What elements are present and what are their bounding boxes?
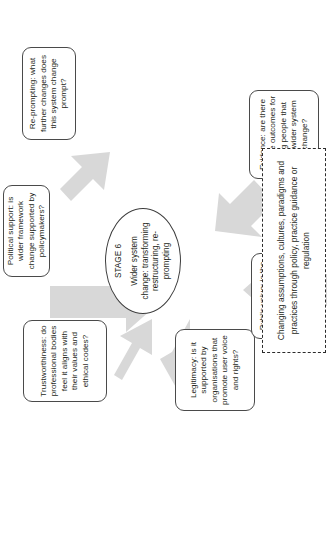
hub-stage-6[interactable]: STAGE 6 Wider system change: transformin… <box>105 208 181 314</box>
question-box-trustworthiness-text: Trustworthiness: do professional bodies … <box>39 325 91 397</box>
question-box-trustworthiness[interactable]: Trustworthiness: do professional bodies … <box>23 320 107 402</box>
question-box-legitimacy[interactable]: Legitimacy: is it supported by organisat… <box>175 329 255 411</box>
note-box-text: Changing assumptions, cultures, paradigm… <box>275 157 313 344</box>
question-box-re-prompting[interactable]: Re-prompting: what further changes does … <box>22 47 76 140</box>
question-box-political-support-text: Political support: is wider framework ch… <box>6 190 48 272</box>
diagram-canvas: Trustworthiness: do professional bodies … <box>0 0 327 533</box>
arrow-from-trustworthiness <box>114 319 152 380</box>
question-box-legitimacy-text: Legitimacy: is it supported by organisat… <box>189 334 241 406</box>
hub-stage-label: STAGE 6 <box>114 244 125 278</box>
diagram-inner: Trustworthiness: do professional bodies … <box>0 0 327 533</box>
hub-description: Wider system change: transforming restru… <box>130 221 172 301</box>
question-box-re-prompting-text: Re-prompting: what further changes does … <box>28 52 70 135</box>
question-box-political-support[interactable]: Political support: is wider framework ch… <box>3 185 50 277</box>
arrow-from-re-prompting <box>60 152 110 201</box>
note-box-system-change: Changing assumptions, cultures, paradigm… <box>262 148 326 353</box>
